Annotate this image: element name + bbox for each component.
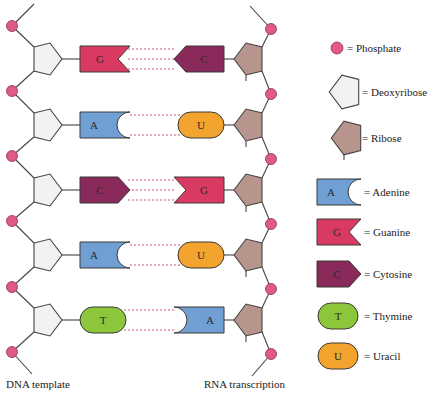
legend-label: = Cytosine: [364, 268, 412, 280]
legend-label: = Uracil: [364, 350, 400, 362]
legend-label: = Ribose: [362, 132, 402, 144]
base-pair-row: CG: [34, 174, 262, 206]
deoxyribose-icon: [329, 75, 358, 109]
adenine-icon: [80, 112, 130, 138]
adenine-icon: [317, 179, 361, 205]
base-letter: U: [334, 350, 342, 362]
deoxyribose-icon: [34, 304, 62, 336]
deoxyribose-icon: [34, 43, 62, 75]
phosphate-icon: [266, 284, 277, 295]
ribose-icon: [234, 239, 262, 271]
dna-template-strand: [7, 4, 35, 374]
guanine-icon: [80, 46, 130, 72]
cytosine-icon: [174, 46, 224, 72]
base-letter: A: [90, 249, 98, 261]
base-letter: G: [333, 226, 341, 238]
base-pair-row: AU: [34, 109, 262, 141]
legend-item-phosphate: = Phosphate: [331, 42, 401, 54]
base-pair-row: AU: [34, 239, 262, 271]
legend-item-adenine: A= Adenine: [317, 179, 410, 205]
base-letter: A: [206, 314, 214, 326]
rna-transcription-caption: RNA transcription: [204, 378, 285, 390]
deoxyribose-icon: [34, 109, 62, 141]
phosphate-icon: [266, 349, 277, 360]
base-pair-row: GC: [34, 43, 262, 75]
phosphate-icon: [266, 89, 277, 100]
phosphate-icon: [7, 282, 18, 293]
base-letter: A: [327, 186, 335, 198]
adenine-icon: [174, 307, 224, 333]
base-letter: C: [200, 53, 207, 65]
legend-item-cytosine: C= Cytosine: [317, 261, 412, 287]
legend-item-thymine: T= Thymine: [318, 303, 413, 329]
ribose-icon: [234, 109, 262, 141]
guanine-icon: [174, 177, 224, 203]
legend-label: = Thymine: [364, 310, 413, 322]
base-letter: U: [197, 249, 205, 261]
deoxyribose-icon: [34, 239, 62, 271]
phosphate-icon: [7, 86, 18, 97]
ribose-icon: [234, 174, 262, 206]
ribose-icon: [234, 43, 262, 75]
base-pair-row: TA: [34, 304, 262, 336]
legend-label: = Deoxyribose: [362, 86, 427, 98]
phosphate-icon: [7, 21, 18, 32]
legend-label: = Phosphate: [347, 42, 401, 54]
phosphate-icon: [7, 151, 18, 162]
legend-item-uracil: U= Uracil: [318, 343, 400, 369]
base-letter: T: [335, 310, 342, 322]
legend-item-ribose: = Ribose: [331, 121, 401, 160]
ribose-icon: [331, 121, 360, 155]
legend-item-deoxyribose: = Deoxyribose: [329, 75, 427, 109]
base-letter: C: [96, 184, 103, 196]
adenine-icon: [80, 242, 130, 268]
legend: = Phosphate= Deoxyribose= RiboseA= Adeni…: [317, 42, 427, 369]
base-letter: T: [100, 314, 107, 326]
phosphate-icon: [331, 42, 343, 54]
cytosine-icon: [80, 177, 130, 203]
deoxyribose-icon: [34, 174, 62, 206]
legend-label: = Adenine: [364, 186, 410, 198]
phosphate-icon: [266, 219, 277, 230]
base-letter: U: [197, 119, 205, 131]
dna-rna-transcription-diagram: GCAUCGAUTA= Phosphate= Deoxyribose= Ribo…: [0, 0, 434, 396]
base-letter: G: [96, 53, 104, 65]
base-letter: G: [200, 184, 208, 196]
phosphate-icon: [266, 24, 277, 35]
phosphate-icon: [7, 216, 18, 227]
legend-label: = Guanine: [364, 226, 410, 238]
legend-item-guanine: G= Guanine: [317, 219, 410, 245]
phosphate-icon: [7, 347, 18, 358]
dna-template-caption: DNA template: [6, 378, 70, 390]
base-letter: A: [90, 119, 98, 131]
base-letter: C: [333, 268, 340, 280]
phosphate-icon: [266, 154, 277, 165]
ribose-icon: [234, 304, 262, 336]
